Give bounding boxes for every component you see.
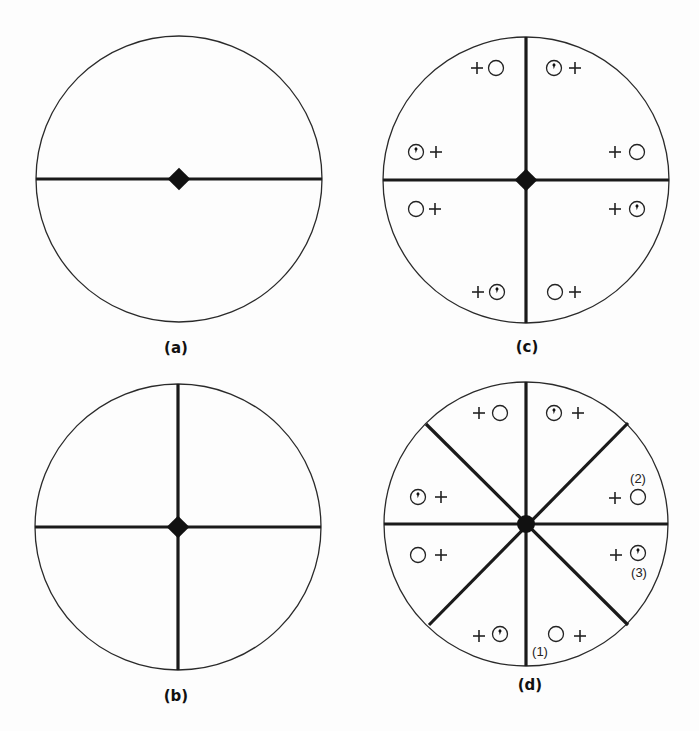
panel-label-d: (d): [518, 676, 542, 694]
annotation-2: (2): [630, 471, 646, 486]
symbol-group-top-left: [471, 61, 504, 76]
diamond-hub-icon: [167, 516, 190, 539]
symbol-group-top-left: [473, 406, 508, 421]
symbol-group-right-upper: [609, 145, 645, 160]
panel-label-b: (b): [164, 687, 188, 705]
diamond-hub-icon: [168, 168, 191, 191]
symbol-group-right-lower: [609, 202, 645, 217]
symbol-group-left-lower: [411, 548, 448, 563]
symbol-group-left-upper: [411, 490, 448, 505]
symbol-group-bottom-right: [548, 285, 582, 300]
symbol-group-top-right: [547, 61, 582, 76]
symbol-group-left-lower: [409, 202, 442, 217]
stereogram-figure: (a) (b): [0, 0, 699, 731]
panel-c: (c): [383, 37, 669, 356]
symbol-group-bottom-right: (1): [532, 627, 586, 660]
symbol-group-right-upper: (2): [609, 471, 646, 505]
annotation-3: (3): [631, 565, 647, 580]
annotation-1: (1): [532, 644, 548, 659]
panel-a: (a): [36, 36, 322, 357]
panel-d: (2) (3) (1) (d): [384, 382, 668, 694]
symbol-group-bottom-left: [472, 285, 505, 300]
hub-icon: [517, 515, 535, 533]
symbol-group-top-right: [547, 406, 585, 421]
symbol-group-left-upper: [409, 145, 443, 160]
symbol-group-bottom-left: [473, 627, 508, 643]
panel-label-c: (c): [516, 338, 539, 356]
diamond-hub-icon: [515, 169, 538, 192]
panel-b: (b): [35, 384, 321, 705]
panel-label-a: (a): [164, 339, 188, 357]
symbol-group-right-lower: (3): [610, 546, 647, 581]
